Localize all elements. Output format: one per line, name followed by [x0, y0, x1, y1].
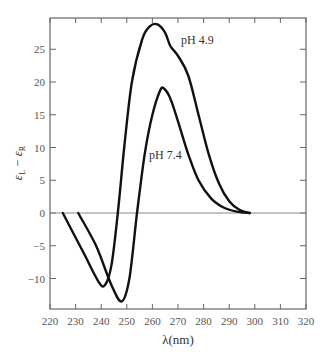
axis-ticks — [50, 18, 306, 309]
x-axis-title: λ(nm) — [162, 332, 194, 347]
annotation-ph-7-4: pH 7.4 — [149, 148, 182, 162]
y-tick-label: 5 — [40, 174, 46, 186]
x-tick-label: 280 — [195, 315, 212, 327]
x-tick-label: 300 — [247, 315, 264, 327]
y-tick-labels: −10−50510152025 — [28, 43, 46, 284]
y-title-sub-r: R — [18, 145, 27, 151]
x-tick-label: 270 — [170, 315, 187, 327]
y-tick-label: 25 — [34, 43, 46, 55]
y-tick-label: −10 — [28, 273, 46, 285]
x-tick-label: 240 — [93, 315, 110, 327]
x-tick-label: 320 — [298, 315, 315, 327]
x-tick-label: 290 — [221, 315, 238, 327]
data-curves — [63, 24, 250, 302]
annotation-ph-4-9: pH 4.9 — [181, 33, 214, 47]
x-tick-label: 230 — [67, 315, 84, 327]
x-tick-label: 220 — [42, 315, 59, 327]
y-tick-label: 20 — [34, 76, 46, 88]
y-tick-label: −5 — [33, 240, 45, 252]
y-tick-label: 15 — [34, 109, 46, 121]
y-title-minus: − — [10, 160, 25, 167]
y-tick-label: 10 — [34, 142, 46, 154]
x-tick-label: 260 — [144, 315, 161, 327]
svg-text:εL − εR: εL − εR — [10, 145, 27, 180]
cd-spectrum-chart: 220230240250260270280290300310320 −10−50… — [0, 0, 327, 359]
y-tick-label: 0 — [40, 207, 46, 219]
x-tick-labels: 220230240250260270280290300310320 — [42, 315, 315, 327]
x-tick-label: 250 — [119, 315, 136, 327]
x-tick-label: 310 — [272, 315, 289, 327]
plot-frame — [50, 18, 306, 309]
y-axis-title: εL − εR — [10, 145, 27, 180]
